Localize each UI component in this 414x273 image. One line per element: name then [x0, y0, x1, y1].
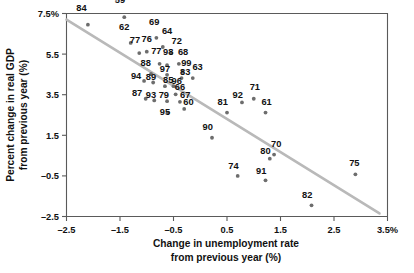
data-point-label: 88 [141, 58, 151, 68]
x-tick-label: –0.5 [164, 225, 182, 235]
plot-frame [67, 14, 388, 217]
y-axis-title-line2: from previous year (%) [18, 60, 29, 170]
regression-line [67, 20, 380, 214]
data-point [252, 97, 256, 101]
data-point [240, 101, 244, 105]
data-point-label: 98 [163, 47, 173, 57]
data-point-label: 72 [172, 36, 182, 46]
y-axis-title: Percent change in real GDP from previous… [5, 48, 29, 182]
x-tick-label: 0.5 [221, 225, 234, 235]
data-point-label: 91 [256, 166, 266, 176]
data-point-label: 81 [218, 97, 228, 107]
y-tick-label: –2.5 [41, 212, 59, 222]
data-point [86, 23, 90, 27]
data-point-label: 95 [160, 107, 170, 117]
data-point [225, 111, 229, 115]
data-point-label: 92 [233, 90, 243, 100]
data-point-label: 71 [250, 82, 260, 92]
data-point-label: 87 [132, 88, 142, 98]
y-tick-label: –0.5 [41, 171, 59, 181]
data-points [86, 15, 357, 207]
data-point [154, 36, 158, 40]
data-point [268, 157, 272, 161]
x-tick-label: 3.5% [377, 225, 399, 235]
data-point [165, 99, 169, 103]
x-axis-title-line1: Change in unemployment rate [153, 238, 299, 249]
data-point-label: 75 [349, 158, 359, 168]
data-point-label: 69 [149, 17, 159, 27]
y-tick-label: 3.5 [46, 90, 59, 100]
data-point-label: 61 [261, 97, 271, 107]
data-point-label: 82 [302, 190, 312, 200]
data-point [174, 92, 178, 96]
data-point-label: 80 [260, 146, 270, 156]
data-point-label: 79 [159, 90, 169, 100]
data-point [272, 153, 276, 157]
data-point [137, 51, 141, 55]
x-axis-title: Change in unemployment rate from previou… [153, 238, 299, 263]
data-point [354, 172, 358, 176]
trend-line [67, 20, 380, 214]
data-point-label: 89 [146, 72, 156, 82]
data-point [191, 76, 195, 80]
data-point-label: 68 [178, 47, 188, 57]
data-point-label: 76 [142, 34, 152, 44]
x-axis-tick-labels: –2.5–1.5–0.50.51.52.53.5% [57, 225, 398, 235]
data-point-label: 94 [131, 71, 142, 81]
x-axis-ticks [67, 217, 388, 222]
data-point [264, 178, 268, 182]
data-point-label: 59 [115, 0, 125, 5]
y-tick-label: 1.5 [46, 131, 59, 141]
data-point-label: 74 [228, 161, 239, 171]
y-tick-label: 5.5 [46, 50, 59, 60]
data-point [236, 174, 240, 178]
data-point-label: 90 [203, 122, 213, 132]
data-point [182, 107, 186, 111]
data-point [178, 100, 182, 104]
y-axis-title-line1: Percent change in real GDP [5, 48, 16, 182]
data-point-label: 77 [151, 46, 161, 56]
data-point [122, 15, 126, 19]
data-point [310, 203, 314, 207]
scatter-chart: –2.5–1.5–0.50.51.52.53.5% –2.5–0.51.53.5… [0, 0, 414, 273]
y-tick-label: 7.5% [38, 9, 60, 19]
data-point [264, 111, 268, 115]
axis-frame [67, 14, 388, 217]
data-point-label: 97 [160, 64, 170, 74]
data-point-label: 70 [271, 139, 281, 149]
data-point-label: 60 [183, 97, 193, 107]
y-axis-tick-labels: –2.5–0.51.53.55.57.5% [38, 9, 60, 222]
x-tick-label: 2.5 [328, 225, 341, 235]
data-point-label: 63 [192, 62, 202, 72]
x-tick-label: 1.5 [274, 225, 287, 235]
data-point-label: 84 [76, 3, 87, 13]
data-point [210, 136, 214, 140]
data-point [145, 50, 149, 54]
data-point-label: 62 [119, 22, 129, 32]
x-tick-label: –2.5 [57, 225, 75, 235]
data-point-label: 77 [130, 35, 140, 45]
data-point-label: 93 [146, 90, 156, 100]
x-axis-title-line2: from previous year (%) [171, 252, 281, 263]
data-point-labels: 8459626964777672779868889799638394898596… [76, 0, 359, 200]
x-tick-label: –1.5 [111, 225, 129, 235]
chart-canvas: –2.5–1.5–0.50.51.52.53.5% –2.5–0.51.53.5… [0, 0, 414, 273]
y-axis-ticks [62, 14, 67, 217]
